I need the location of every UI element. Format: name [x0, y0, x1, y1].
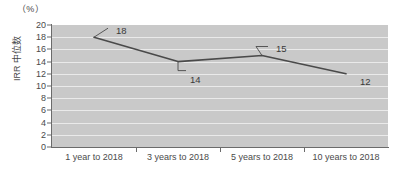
y-tick-mark — [47, 86, 52, 87]
y-tick-label: 18 — [22, 33, 46, 42]
y-axis-title: IRR 中位数 — [10, 17, 23, 101]
data-point-label: 15 — [276, 44, 287, 54]
data-point-label: 14 — [190, 75, 201, 85]
y-axis-tick-labels: 02468101214161820 — [22, 0, 46, 180]
label-leader-line — [178, 62, 186, 71]
data-point-label: 12 — [360, 77, 371, 87]
y-tick-mark — [47, 147, 52, 148]
label-leader-line — [256, 47, 268, 56]
x-tick-label: 5 years to 2018 — [231, 152, 293, 162]
y-tick-mark — [47, 98, 52, 99]
cropped-caption — [96, 173, 346, 180]
y-tick-mark — [47, 110, 52, 111]
x-tick-mark — [136, 147, 137, 152]
y-tick-label: 8 — [22, 94, 46, 103]
x-tick-label: 3 years to 2018 — [147, 152, 209, 162]
y-tick-mark — [47, 25, 52, 26]
y-tick-label: 20 — [22, 21, 46, 30]
y-tick-label: 10 — [22, 82, 46, 91]
y-tick-mark — [47, 73, 52, 74]
series-line-irr-median — [52, 25, 388, 147]
x-tick-mark — [220, 147, 221, 152]
line-path — [94, 37, 346, 74]
label-leader-line — [94, 28, 108, 37]
x-tick-mark — [304, 147, 305, 152]
y-tick-mark — [47, 122, 52, 123]
y-tick-mark — [47, 134, 52, 135]
y-tick-label: 0 — [22, 143, 46, 152]
y-tick-label: 2 — [22, 130, 46, 139]
y-tick-mark — [47, 61, 52, 62]
data-point-label: 18 — [116, 26, 127, 36]
y-tick-label: 14 — [22, 57, 46, 66]
x-tick-label: 1 year to 2018 — [65, 152, 123, 162]
y-tick-label: 6 — [22, 106, 46, 115]
y-tick-label: 12 — [22, 69, 46, 78]
y-tick-mark — [47, 37, 52, 38]
x-tick-label: 10 years to 2018 — [312, 152, 379, 162]
y-tick-label: 16 — [22, 45, 46, 54]
y-tick-mark — [47, 49, 52, 50]
chart-figure: （%） IRR 中位数 02468101214161820 18141512 1… — [0, 0, 404, 180]
y-tick-label: 4 — [22, 118, 46, 127]
